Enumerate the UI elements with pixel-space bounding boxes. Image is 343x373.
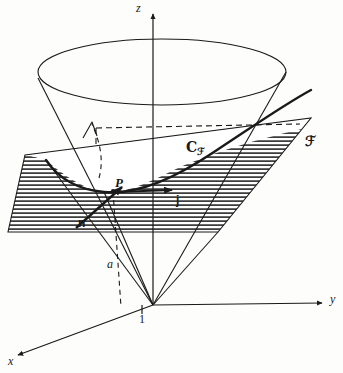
y-axis xyxy=(153,303,322,305)
x-axis-label: x xyxy=(8,355,13,367)
curve-label-subscript: ℱ xyxy=(197,146,205,157)
x-axis xyxy=(18,305,153,355)
diagram-svg xyxy=(0,0,343,373)
y-axis-label: y xyxy=(330,293,335,305)
cone-right-lower-edge xyxy=(153,232,218,305)
vector-n-label: n xyxy=(78,217,85,229)
x-axis-unit-label: 1 xyxy=(139,313,145,325)
curve-label: Cℱ xyxy=(186,140,205,157)
distance-a-label: a xyxy=(107,258,113,270)
diagram-canvas: z y x 1 P n j a Cℱ ℱ xyxy=(0,0,343,373)
curve-label-main: C xyxy=(186,139,197,155)
z-axis-label: z xyxy=(136,2,141,14)
plane-label: ℱ xyxy=(305,134,316,148)
point-p-label: P xyxy=(115,176,123,189)
vector-j-label: j xyxy=(176,194,179,206)
